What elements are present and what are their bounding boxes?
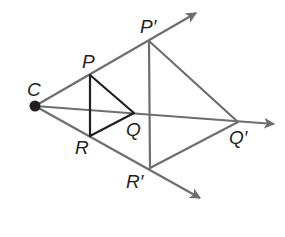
label-center-c: C [27,80,41,99]
image-triangle [149,41,238,168]
ray-cr [35,106,200,198]
center-point [30,101,41,112]
label-point-q: Q [126,120,141,139]
ray-cp [35,13,196,106]
label-point-p-prime: P′ [140,17,156,36]
label-point-r-prime: R′ [126,172,143,191]
label-point-r: R [75,138,89,157]
label-point-q-prime: Q′ [229,128,247,147]
label-point-p: P [82,52,95,71]
